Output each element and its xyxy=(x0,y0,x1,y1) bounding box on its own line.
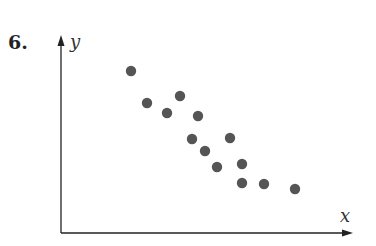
y-axis-label: y xyxy=(69,31,81,52)
y-axis xyxy=(58,35,65,233)
data-point xyxy=(259,179,269,189)
x-axis xyxy=(61,230,353,237)
data-point xyxy=(193,111,203,121)
data-point xyxy=(290,184,300,194)
data-point xyxy=(126,66,136,76)
data-point xyxy=(175,91,185,101)
data-point xyxy=(200,146,210,156)
scatter-plot: y x xyxy=(0,0,376,246)
data-point xyxy=(237,178,247,188)
data-point xyxy=(162,108,172,118)
data-point xyxy=(142,98,152,108)
y-axis-arrow-icon xyxy=(58,35,65,46)
data-points xyxy=(126,66,300,194)
data-point xyxy=(237,159,247,169)
data-point xyxy=(225,133,235,143)
x-axis-arrow-icon xyxy=(342,230,353,237)
data-point xyxy=(212,162,222,172)
data-point xyxy=(187,134,197,144)
x-axis-label: x xyxy=(340,205,350,226)
